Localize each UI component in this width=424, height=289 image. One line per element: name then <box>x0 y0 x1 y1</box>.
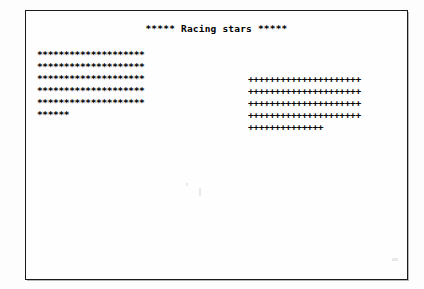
asterisk-row: ******************** <box>37 97 144 109</box>
plus-row: +++++++++++++++++++++ <box>248 97 361 109</box>
plus-row: +++++++++++++++++++++ <box>248 85 361 97</box>
plus-row: +++++++++++++++++++++ <box>248 109 361 121</box>
program-title: ***** Racing stars ***** <box>26 23 407 35</box>
console-screen: ***** Racing stars ***** ***************… <box>26 11 407 279</box>
plus-row: +++++++++++++++++++++ <box>248 73 361 85</box>
console-frame: ***** Racing stars ***** ***************… <box>25 10 408 280</box>
asterisk-row: ****** <box>37 109 69 121</box>
asterisk-row: ******************** <box>37 61 144 73</box>
asterisk-row: ******************** <box>37 73 144 85</box>
asterisk-row: ******************** <box>37 85 144 97</box>
asterisk-row: ******************** <box>37 49 144 61</box>
plus-row: ++++++++++++++ <box>248 121 323 133</box>
scan-page: ***** Racing stars ***** ***************… <box>0 0 424 289</box>
